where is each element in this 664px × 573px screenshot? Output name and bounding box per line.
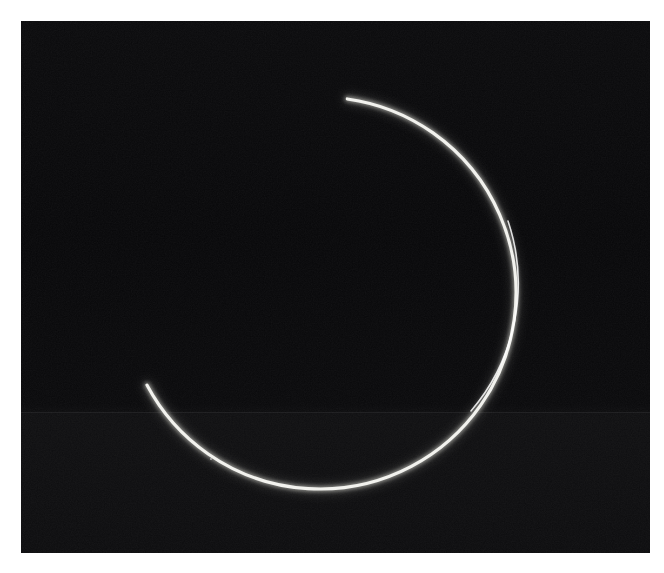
crescent-arc-graphic [21,21,650,553]
arc-layer [21,21,650,553]
image-canvas: Luminous crescent arc on dark field [0,0,664,573]
photographic-plate [21,21,650,553]
bright-speck [210,458,212,460]
